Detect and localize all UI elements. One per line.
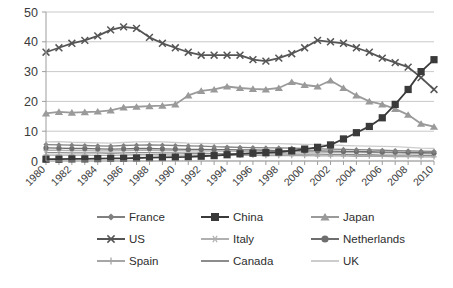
marker-plus <box>107 257 114 264</box>
data-series-layer <box>42 24 438 163</box>
legend-item-uk[interactable]: UK <box>310 250 418 272</box>
legend-item-us[interactable]: US <box>96 228 200 250</box>
marker-square <box>172 154 179 161</box>
series-us <box>43 24 438 93</box>
marker-square <box>55 156 62 163</box>
marker-square <box>430 56 437 63</box>
x-tick-label: 1988 <box>126 163 151 188</box>
marker-square <box>301 145 308 152</box>
marker-cross <box>431 86 438 93</box>
chart-legend: FranceChinaJapanUSItalyNetherlandsSpainC… <box>96 206 418 272</box>
legend-marker-icon <box>96 254 126 268</box>
x-tick-label: 2008 <box>385 163 410 188</box>
legend-swatch-none-icon <box>310 254 340 268</box>
y-tick-label: 40 <box>24 35 38 49</box>
marker-square <box>146 154 153 161</box>
marker-square <box>379 114 386 121</box>
legend-label: UK <box>343 255 359 267</box>
legend-swatch-circle-icon <box>310 232 340 246</box>
legend-row: USItalyNetherlands <box>96 228 418 250</box>
chart-container: 01020304050 1980198219841986198819901992… <box>0 0 453 288</box>
marker-square <box>340 135 347 142</box>
legend-label: Spain <box>129 255 158 267</box>
legend-label: China <box>233 211 263 223</box>
legend-marker-icon <box>200 254 230 268</box>
legend-marker-icon <box>96 210 126 224</box>
y-tick-label: 20 <box>24 95 38 109</box>
x-tick-label: 2004 <box>333 163 358 188</box>
y-tick-label: 10 <box>24 125 38 139</box>
marker-square <box>366 123 373 130</box>
legend-label: US <box>129 233 145 245</box>
x-tick-label: 1986 <box>100 163 125 188</box>
x-tick-label: 2006 <box>359 163 384 188</box>
marker-triangle <box>404 111 412 118</box>
y-tick-label: 50 <box>24 6 38 20</box>
marker-square <box>314 144 321 151</box>
marker-square <box>211 213 219 221</box>
marker-diamond <box>107 213 114 220</box>
legend-item-italy[interactable]: Italy <box>200 228 310 250</box>
y-tick-label: 30 <box>24 65 38 79</box>
marker-triangle <box>326 77 334 84</box>
legend-swatch-triangle-icon <box>310 210 340 224</box>
x-tick-label: 2000 <box>281 163 306 188</box>
marker-square <box>185 153 192 160</box>
marker-square <box>327 141 334 148</box>
x-tick-label: 1996 <box>229 163 254 188</box>
x-tick-label: 2002 <box>307 163 332 188</box>
legend-swatch-square-icon <box>200 210 230 224</box>
legend-marker-icon <box>310 254 340 268</box>
marker-square <box>198 153 205 160</box>
y-axis-ticks <box>42 12 46 161</box>
legend-label: Netherlands <box>343 233 405 245</box>
marker-square <box>417 68 424 75</box>
legend-item-france[interactable]: France <box>96 206 200 228</box>
series-line <box>46 27 434 90</box>
legend-item-netherlands[interactable]: Netherlands <box>310 228 418 250</box>
legend-swatch-cross-icon <box>96 232 126 246</box>
legend-label: France <box>129 211 165 223</box>
marker-circle <box>321 235 328 242</box>
x-tick-label: 1980 <box>22 163 47 188</box>
x-tick-label: 1984 <box>74 163 99 188</box>
legend-swatch-none-icon <box>200 254 230 268</box>
marker-square <box>353 129 360 136</box>
marker-asterisk <box>211 236 218 242</box>
legend-marker-icon <box>96 232 126 246</box>
x-tick-label: 1998 <box>255 163 280 188</box>
legend-swatch-diamond-icon <box>96 210 126 224</box>
legend-swatch-asterisk-icon <box>200 232 230 246</box>
legend-swatch-plus-icon <box>96 254 126 268</box>
legend-item-china[interactable]: China <box>200 206 310 228</box>
marker-triangle <box>288 78 296 85</box>
marker-square <box>262 149 269 156</box>
legend-item-canada[interactable]: Canada <box>200 250 310 272</box>
marker-square <box>275 148 282 155</box>
x-tick-label: 1992 <box>178 163 203 188</box>
legend-row: SpainCanadaUK <box>96 250 418 272</box>
marker-square <box>288 147 295 154</box>
legend-label: Japan <box>343 211 374 223</box>
legend-marker-icon <box>200 232 230 246</box>
legend-marker-icon <box>200 210 230 224</box>
legend-label: Canada <box>233 255 273 267</box>
series-japan <box>42 77 438 130</box>
marker-square <box>249 150 256 157</box>
marker-square <box>405 86 412 93</box>
legend-marker-icon <box>310 210 340 224</box>
marker-square <box>211 152 218 159</box>
legend-marker-icon <box>310 232 340 246</box>
marker-square <box>223 151 230 158</box>
series-line <box>46 60 434 160</box>
x-axis-labels: 1980198219841986198819901992199419961998… <box>22 163 435 188</box>
legend-item-spain[interactable]: Spain <box>96 250 200 272</box>
x-tick-label: 1990 <box>152 163 177 188</box>
legend-item-japan[interactable]: Japan <box>310 206 418 228</box>
marker-square <box>392 101 399 108</box>
marker-cross <box>146 34 153 41</box>
x-tick-label: 1994 <box>203 163 228 188</box>
marker-square <box>236 150 243 157</box>
legend-row: FranceChinaJapan <box>96 206 418 228</box>
marker-cross <box>301 44 308 51</box>
